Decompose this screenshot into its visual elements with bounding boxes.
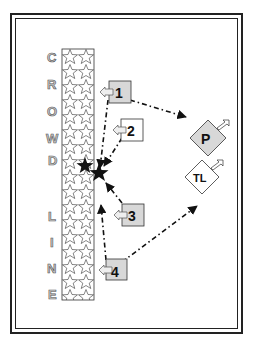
player-label: 3 (128, 208, 136, 224)
crowd-letter: I (50, 235, 54, 250)
player-4[interactable]: 4 (99, 259, 127, 280)
crowd-letter: O (47, 104, 57, 119)
player-label: 1 (115, 85, 123, 101)
target-tl[interactable]: TL (185, 160, 223, 194)
path-1-to-star (100, 100, 108, 168)
player-1[interactable]: 1 (100, 81, 131, 103)
crowd-letter: D (48, 153, 57, 168)
path-3-to-star (106, 183, 122, 203)
crowd-letter: N (47, 261, 56, 276)
player-3[interactable]: 3 (114, 204, 144, 226)
target-label: TL (193, 172, 207, 184)
crowd-letter: R (47, 77, 57, 92)
path-1-to-p (130, 100, 186, 117)
arrow-up-right-icon (217, 120, 229, 130)
path-2-to-star (104, 138, 122, 166)
crowd-line: C R O W D L I N E (46, 49, 94, 302)
crowd-stars-column (62, 49, 94, 300)
target-label: P (201, 131, 210, 147)
diagram: C R O W D L I N E 1 2 3 4 (0, 0, 257, 344)
crowd-letter: C (47, 50, 57, 65)
crowd-letter: L (48, 209, 56, 224)
movement-lines (100, 100, 197, 262)
crowd-letter: E (48, 287, 57, 302)
player-label: 4 (111, 264, 119, 280)
path-4-up (101, 205, 106, 260)
arrow-up-right-icon (211, 160, 223, 170)
player-2[interactable]: 2 (113, 119, 143, 141)
crowd-letter: W (46, 131, 59, 146)
player-label: 2 (127, 123, 135, 139)
target-p[interactable]: P (190, 120, 229, 156)
